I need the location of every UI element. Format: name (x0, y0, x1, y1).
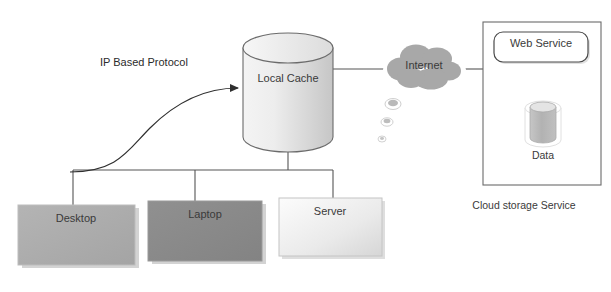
local-cache-label: Local Cache (257, 72, 318, 84)
laptop-node: Laptop (148, 201, 266, 264)
diagram-canvas: IP Based Protocol Local Cache (0, 0, 611, 292)
internet-label: Internet (405, 59, 442, 71)
cloud-storage-service-caption: Cloud storage Service (472, 199, 575, 211)
web-service-label: Web Service (510, 37, 572, 49)
local-cache-cylinder: Local Cache (243, 33, 333, 152)
server-node: Server (279, 198, 385, 259)
data-cylinder (525, 101, 561, 147)
data-cylinder-top (530, 102, 556, 112)
ip-based-protocol-label: IP Based Protocol (100, 56, 188, 68)
cylinder-top (243, 33, 333, 63)
cylinder-body (243, 48, 333, 152)
desktop-node: Desktop (18, 205, 139, 268)
server-label: Server (314, 205, 347, 217)
data-label: Data (532, 149, 554, 161)
desktop-label: Desktop (56, 212, 96, 224)
ip-protocol-arrow (70, 88, 238, 172)
laptop-label: Laptop (188, 208, 222, 220)
internet-cloud: Internet (378, 41, 466, 142)
cloud-storage-service-group: Web Service Data (483, 22, 601, 185)
cloud-trail-bubbles (378, 99, 401, 143)
